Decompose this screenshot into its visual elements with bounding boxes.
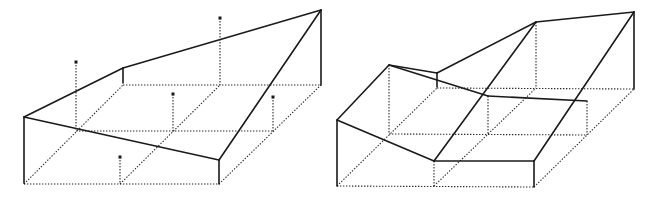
diagram-canvas <box>0 0 657 202</box>
sample-point-marker <box>119 156 122 159</box>
surface-edge <box>337 65 389 120</box>
sample-point-marker <box>75 61 78 64</box>
hidden-edge <box>120 85 220 184</box>
surface-diagram <box>0 0 657 202</box>
surface-edge <box>24 68 123 117</box>
surface-edge <box>337 120 434 161</box>
hidden-edge <box>24 85 123 184</box>
hidden-edge <box>337 186 534 187</box>
panel-right <box>337 12 634 187</box>
surface-edge <box>434 22 536 161</box>
hidden-edge <box>337 88 437 186</box>
panel-left <box>24 10 321 184</box>
surface-edge <box>24 117 219 160</box>
hidden-edge <box>434 88 536 186</box>
sample-point-marker <box>172 93 175 96</box>
surface-edge <box>123 10 321 68</box>
sample-point-marker <box>272 96 275 99</box>
surface-edge <box>437 22 536 73</box>
surface-edge <box>536 12 634 22</box>
surface-edge <box>389 65 488 96</box>
sample-point-marker <box>219 17 222 20</box>
surface-edge <box>488 96 587 101</box>
hidden-edge <box>389 134 587 135</box>
hidden-edge <box>219 85 321 184</box>
